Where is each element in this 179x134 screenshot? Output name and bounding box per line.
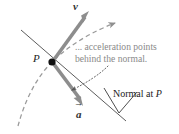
diagram-canvas	[0, 0, 179, 134]
callout-annotation: ... acceleration points behind the norma…	[75, 41, 157, 66]
acceleration-vector-label: a	[76, 108, 82, 120]
callout-line-1: ... acceleration points	[75, 41, 157, 53]
callout-line-2: behind the normal.	[75, 53, 157, 65]
normal-line-label-text: Normal at	[113, 88, 156, 99]
vector-diagram-figure: P v a ... acceleration points behind the…	[0, 0, 179, 134]
point-p-marker	[48, 58, 55, 65]
velocity-vector-label: v	[73, 0, 78, 12]
trajectory-curve	[18, 23, 115, 126]
normal-line-label: Normal at P	[113, 88, 162, 99]
point-p-label: P	[33, 52, 40, 64]
callout-leader-line	[72, 66, 108, 90]
velocity-vector-label-text: v	[73, 0, 78, 12]
acceleration-vector-label-text: a	[76, 108, 82, 120]
normal-line-label-point: P	[156, 88, 162, 99]
